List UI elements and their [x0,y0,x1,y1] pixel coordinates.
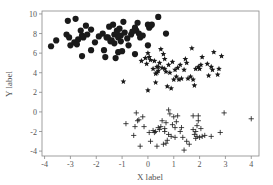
circle-marker [163,30,169,36]
x-tick-label: 2 [198,160,202,169]
circle-marker [84,31,90,37]
circle-marker [122,29,128,35]
x-tick-label: -4 [41,160,48,169]
y-tick-label: 4 [33,69,37,78]
x-tick-label: 3 [223,160,227,169]
circle-marker [115,49,121,55]
circle-marker [140,32,146,38]
y-tick-label: 10 [29,10,37,19]
circle-marker [72,16,78,22]
circle-marker [92,39,98,45]
x-tick-label: -2 [93,160,100,169]
circle-marker [79,53,85,59]
circle-marker [129,28,135,34]
x-axis-label: X label [137,172,164,182]
circle-marker [53,37,59,43]
circle-marker [149,22,155,28]
y-tick-label: -2 [30,128,37,137]
axes-frame [42,11,259,156]
circle-marker [48,43,54,49]
circle-marker [110,22,116,28]
circle-marker [103,34,109,40]
x-tick-label: 4 [249,160,253,169]
y-tick-label: 6 [33,49,37,58]
circle-marker [132,51,138,57]
circle-marker [83,23,89,29]
x-tick-label: 1 [172,160,176,169]
y-axis-label: Y label [4,71,14,97]
circle-marker [101,47,107,53]
scatter-figure: -4-3-2-101234 -4-20246810 X label Y labe… [0,0,273,185]
circle-marker [88,47,94,53]
circle-marker [66,34,72,40]
scatter-plot: -4-3-2-101234 -4-20246810 X label Y labe… [0,0,273,185]
y-tick-label: 0 [33,108,37,117]
circle-marker [145,42,151,48]
circle-marker [113,55,119,61]
x-tick-label: -3 [67,160,74,169]
circle-marker [120,19,126,25]
x-tick-label: 0 [146,160,150,169]
circle-marker [118,38,124,44]
x-axis-ticks: -4-3-2-101234 [41,156,253,169]
circle-marker [134,20,140,26]
circle-marker [125,42,131,48]
y-tick-label: 2 [33,88,37,97]
circle-marker [102,54,108,60]
circle-marker [116,26,122,32]
y-tick-label: 8 [33,30,37,39]
y-tick-label: -4 [30,147,37,156]
circle-marker [88,27,94,33]
circle-marker [75,36,81,42]
y-axis-ticks: -4-20246810 [29,10,42,156]
circle-marker [65,18,71,24]
circle-marker [155,14,161,20]
x-tick-label: -1 [119,160,126,169]
